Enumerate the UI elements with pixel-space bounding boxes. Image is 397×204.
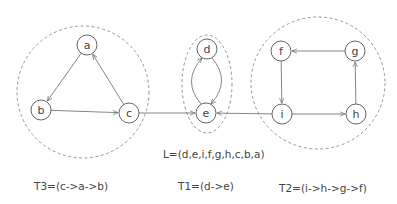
edge-e-to-d (191, 58, 202, 104)
cluster-t2 (251, 17, 385, 149)
node-f: f (271, 41, 291, 61)
node-label: b (38, 104, 45, 117)
node-label: i (280, 108, 283, 121)
node-label: e (203, 107, 210, 120)
node-label: a (84, 39, 91, 52)
node-e: e (196, 103, 216, 123)
node-i: i (272, 104, 292, 124)
node-label: d (204, 43, 211, 56)
node-group: abcdefgih (31, 35, 366, 124)
node-label: h (353, 108, 360, 121)
node-a: a (77, 35, 97, 55)
node-g: g (345, 41, 365, 61)
node-label: g (352, 45, 359, 58)
edge-f-to-i (281, 61, 282, 103)
t2-caption: T2=(i->h->g->f) (278, 182, 367, 194)
edge-b-to-c (51, 110, 118, 112)
node-label: c (126, 107, 132, 120)
node-h: h (346, 104, 366, 124)
node-d: d (197, 39, 217, 59)
edge-d-to-e (211, 58, 222, 104)
edge-c-to-a (93, 54, 124, 104)
t1-caption: T1=(d->e) (177, 180, 234, 192)
edge-a-to-b (47, 53, 81, 101)
t3-caption: T3=(c->a->b) (33, 180, 108, 192)
graph-diagram: abcdefgih L=(d,e,i,f,g,h,c,b,a) T3=(c->a… (0, 0, 397, 204)
node-c: c (119, 103, 139, 123)
order-list-caption: L=(d,e,i,f,g,h,c,b,a) (163, 148, 264, 160)
cluster-group (17, 17, 385, 158)
edge-i-to-e (217, 113, 272, 114)
edge-h-to-g (355, 62, 356, 104)
node-b: b (31, 100, 51, 120)
